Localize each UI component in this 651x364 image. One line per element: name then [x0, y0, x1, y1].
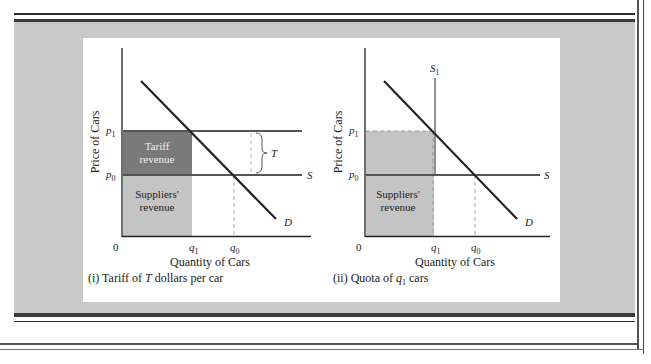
q1-label: q1 — [431, 241, 441, 256]
origin-label: 0 — [356, 241, 362, 253]
p1-label: p1 — [105, 124, 116, 139]
tariff-brace — [256, 133, 267, 173]
suppliers-revenue-label-1: Suppliers' — [376, 188, 420, 200]
x-axis-label: Quantity of Cars — [415, 255, 495, 269]
suppliers-revenue-label-1: Suppliers' — [135, 188, 179, 200]
q0-label: q0 — [230, 241, 240, 256]
p0-label: p0 — [105, 168, 116, 183]
suppliers-revenue-label-2: revenue — [140, 201, 175, 213]
quota-upper-region — [366, 131, 434, 175]
tariff-revenue-label-1: Tariff — [145, 140, 170, 152]
q1-label: q1 — [189, 241, 199, 256]
y-axis-label: Price of Cars — [331, 110, 345, 173]
quota-chart: Suppliers' revenue S D S1 p1 p0 0 q1 q0 … — [331, 48, 550, 287]
suppliers-revenue-label-2: revenue — [381, 201, 416, 213]
quota-supply-label: S1 — [430, 62, 440, 77]
demand-label: D — [283, 216, 292, 228]
supply-label: S — [544, 169, 550, 181]
caption-tariff: (i) Tariff of T dollars per car — [88, 271, 223, 285]
x-axis-label: Quantity of Cars — [170, 255, 250, 269]
origin-label: 0 — [113, 241, 119, 253]
q0-label: q0 — [471, 241, 481, 256]
p0-label: p0 — [348, 168, 359, 183]
supply-label: S — [307, 169, 313, 181]
caption-quota: (ii) Quota of q1 cars — [333, 271, 429, 287]
diagram-svg: Tariff revenue Suppliers' revenue S D T … — [0, 0, 651, 364]
y-axis-label: Price of Cars — [88, 110, 102, 173]
tariff-revenue-label-2: revenue — [140, 153, 175, 165]
tariff-brace-label: T — [271, 147, 278, 159]
p1-label: p1 — [348, 124, 359, 139]
demand-label: D — [524, 216, 533, 228]
tariff-chart: Tariff revenue Suppliers' revenue S D T … — [88, 48, 313, 285]
